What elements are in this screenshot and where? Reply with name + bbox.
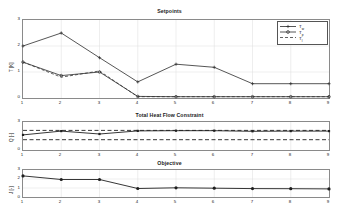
y-tick-label: 2 bbox=[10, 42, 20, 47]
y-tick-label: 1 bbox=[10, 68, 20, 73]
x-tick-label: 2 bbox=[55, 199, 65, 204]
x-tick-label: 7 bbox=[247, 199, 257, 204]
x-tick-label: 3 bbox=[94, 199, 104, 204]
x-tick-label: 4 bbox=[132, 199, 142, 204]
y-tick-label: 3 bbox=[10, 166, 20, 171]
x-tick-label: 8 bbox=[285, 199, 295, 204]
series-canvas-objective bbox=[23, 170, 329, 197]
subplot-objective: Objective J [-] 3 2 1 0 bbox=[0, 157, 339, 215]
y-axis-label-heatflow: Q [-] bbox=[9, 133, 14, 142]
subplot-title-total-heat-flow: Total Heat Flow Constraint bbox=[0, 112, 339, 118]
y-tick-label: 3 bbox=[10, 16, 20, 21]
subplot-setpoints: Setpoints T [K] 3 2 1 0 bbox=[0, 0, 339, 105]
x-tick-label: 5 bbox=[170, 199, 180, 204]
y-tick-label: 0 bbox=[10, 94, 20, 99]
subplot-title-setpoints: Setpoints bbox=[0, 8, 339, 14]
plot-area-objective bbox=[22, 169, 330, 198]
y-tick-label: 1 bbox=[10, 185, 20, 190]
matlab-figure-window: Setpoints T [K] 3 2 1 0 bbox=[0, 0, 339, 215]
grid-lines bbox=[23, 170, 329, 197]
x-tick-label: 9 bbox=[323, 199, 333, 204]
x-tick-label: 1 bbox=[17, 199, 27, 204]
series-canvas-heatflow bbox=[23, 122, 329, 150]
subplot-total-heat-flow: Total Heat Flow Constraint Q [-] 3 0 bbox=[0, 105, 339, 157]
y-tick-label: 0 bbox=[10, 146, 20, 151]
y-tick-label: 3 bbox=[10, 118, 20, 123]
plot-area-heatflow bbox=[22, 121, 330, 151]
subplot-title-objective: Objective bbox=[0, 160, 339, 166]
legend-entry-tl: Tl bbox=[299, 36, 302, 43]
x-tick-label: 6 bbox=[208, 199, 218, 204]
y-tick-label: 2 bbox=[10, 175, 20, 180]
legend-setpoints[interactable]: Tw Tp Tl bbox=[277, 21, 328, 45]
grid-lines bbox=[61, 122, 291, 150]
